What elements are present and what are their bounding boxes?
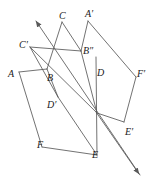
edge-C-left (47, 22, 62, 69)
edge-P-to-Cprime (30, 47, 97, 113)
edge-Fprime-Eprime (124, 77, 136, 122)
edge-Dprime-E (58, 97, 97, 155)
label-D: D (97, 68, 104, 78)
label-A: A (8, 69, 14, 79)
transversal-arrow-head-lower (96, 112, 139, 174)
edge-Cprime-Dprime (30, 47, 58, 97)
label-E-prime: E′ (125, 127, 133, 137)
label-D-prime: D′ (47, 100, 56, 110)
label-B-dprime: B″ (83, 46, 93, 56)
label-F-prime: F′ (137, 69, 145, 79)
edge-C-Bdprime (62, 22, 81, 51)
edge-F-E (42, 147, 97, 155)
geometry-figure: C A′ C′ B″ A B D F′ D′ E′ F E (0, 0, 162, 188)
label-C: C (59, 11, 66, 21)
edge-A-F (19, 72, 42, 147)
edge-Aprime-Fprime (88, 21, 136, 77)
label-F: F (37, 140, 43, 150)
edge-Bdprime-P (81, 51, 97, 113)
label-C-prime: C′ (19, 40, 28, 50)
label-B: B (47, 73, 53, 83)
figure-canvas (0, 0, 162, 188)
label-E: E (92, 150, 98, 160)
label-A-prime: A′ (85, 9, 93, 19)
